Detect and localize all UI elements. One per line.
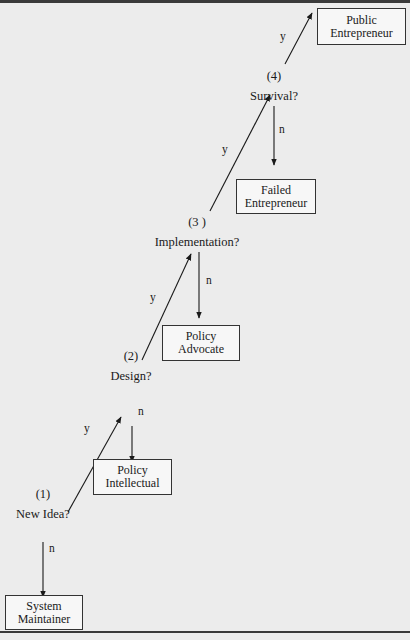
arrow-survival-to-public-entrepreneur [285, 13, 312, 64]
decision-number: (1) [3, 484, 83, 504]
decision-implementation: (3 ) Implementation? [145, 212, 249, 252]
outcome-line2: Advocate [178, 343, 224, 356]
outcome-line2: Intellectual [106, 477, 160, 490]
decision-question: Design? [100, 366, 162, 386]
decision-number: (2) [100, 346, 162, 366]
bottom-rule [0, 631, 410, 633]
outcome-failed-entrepreneur: Failed Entrepreneur [236, 179, 316, 214]
edge-label-n-survival: n [279, 123, 285, 135]
outcome-policy-advocate: Policy Advocate [162, 325, 240, 361]
edge-label-n-newidea: n [49, 542, 55, 554]
edge-label-n-design: n [138, 405, 144, 417]
outcome-line2: Entrepreneur [330, 27, 393, 40]
flow-arrows [0, 0, 410, 640]
decision-number: (4) [243, 66, 305, 86]
outcome-line2: Entrepreneur [245, 197, 308, 210]
decision-question: Survival? [243, 86, 305, 106]
edge-label-y-newidea: y [84, 422, 90, 434]
outcome-system-maintainer: System Maintainer [5, 595, 83, 630]
edge-label-y-survival: y [280, 30, 286, 42]
edge-label-y-implementation: y [222, 143, 228, 155]
decision-new-idea: (1) New Idea? [3, 484, 83, 524]
outcome-line2: Maintainer [18, 613, 71, 626]
decision-question: New Idea? [3, 504, 83, 524]
edge-label-y-design: y [150, 291, 156, 303]
outcome-line1: System [26, 600, 61, 613]
outcome-policy-intellectual: Policy Intellectual [93, 459, 172, 495]
decision-question: Implementation? [145, 232, 249, 252]
outcome-public-entrepreneur: Public Entrepreneur [317, 8, 406, 45]
outcome-line1: Public [346, 14, 377, 27]
decision-number: (3 ) [145, 212, 249, 232]
decision-design: (2) Design? [100, 346, 162, 386]
decision-survival: (4) Survival? [243, 66, 305, 106]
outcome-line1: Failed [261, 184, 291, 197]
diagram-page: Public Entrepreneur Failed Entrepreneur … [0, 0, 410, 640]
edge-label-n-implementation: n [206, 274, 212, 286]
